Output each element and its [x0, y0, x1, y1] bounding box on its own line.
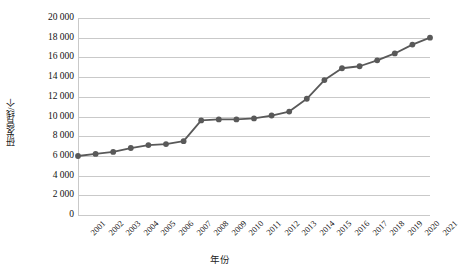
data-point-marker: [216, 117, 222, 123]
x-axis-tick-label: 2007: [195, 219, 213, 237]
data-point-marker: [75, 153, 81, 159]
y-axis-tick-label: 2 000: [10, 190, 74, 200]
x-axis-tick-label: 2001: [89, 219, 107, 237]
y-axis-tick-label: 12 000: [10, 92, 74, 102]
data-point-marker: [198, 118, 204, 124]
x-axis-tick-label: 2017: [371, 219, 389, 237]
y-axis-tick-label: 10 000: [10, 112, 74, 122]
data-point-marker: [392, 51, 398, 57]
data-point-marker: [322, 77, 328, 83]
x-axis-tick-label: 2008: [212, 219, 230, 237]
data-point-marker: [410, 42, 416, 48]
x-axis-tick-label: 2009: [230, 219, 248, 237]
series-line: [78, 38, 430, 156]
x-axis-tick-label: 2012: [283, 219, 301, 237]
x-axis-tick-label: 2015: [335, 219, 353, 237]
x-axis-tick-label: 2003: [124, 219, 142, 237]
y-axis-tick-label: 6 000: [10, 151, 74, 161]
data-point-marker: [374, 57, 380, 63]
x-axis-tick-label: 2014: [318, 219, 336, 237]
x-axis-title: 年份: [0, 252, 440, 266]
data-point-marker: [110, 149, 116, 155]
gridline: [78, 215, 430, 216]
data-point-marker: [304, 96, 310, 102]
y-axis-tick-label: 0: [10, 210, 74, 220]
x-axis-tick-label: 2020: [423, 219, 441, 237]
x-axis-tick-label: 2021: [441, 219, 459, 237]
data-point-marker: [357, 63, 363, 69]
x-axis-tick-label: 2018: [388, 219, 406, 237]
data-point-marker: [234, 117, 240, 123]
x-axis-tick-label: 2004: [142, 219, 160, 237]
data-point-marker: [269, 113, 275, 119]
y-axis-tick-labels: 02 0004 0006 0008 00010 00012 00014 0001…: [8, 18, 74, 215]
plot-area: [78, 18, 430, 215]
y-axis-tick-label: 14 000: [10, 72, 74, 82]
data-point-marker: [339, 65, 345, 71]
y-axis-tick-label: 8 000: [10, 131, 74, 141]
data-point-marker: [93, 151, 99, 157]
x-axis-tick-label: 2006: [177, 219, 195, 237]
x-axis-tick-label: 2019: [406, 219, 424, 237]
data-point-marker: [163, 141, 169, 147]
data-point-marker: [146, 142, 152, 148]
data-point-marker: [128, 145, 134, 151]
x-axis-tick-label: 2002: [107, 219, 125, 237]
y-axis-tick-label: 4 000: [10, 171, 74, 181]
x-axis-tick-label: 2013: [300, 219, 318, 237]
y-axis-tick-label: 18 000: [10, 33, 74, 43]
x-axis-tick-label: 2005: [159, 219, 177, 237]
line-series-rd-pipeline: [78, 18, 430, 215]
y-axis-tick-label: 20 000: [10, 13, 74, 23]
data-point-marker: [181, 138, 187, 144]
x-axis-tick-label: 2011: [265, 219, 283, 237]
data-point-marker: [427, 35, 433, 41]
data-point-marker: [251, 116, 257, 122]
y-axis-tick-label: 16 000: [10, 52, 74, 62]
x-axis-tick-label: 2016: [353, 219, 371, 237]
data-point-marker: [286, 109, 292, 115]
x-axis-tick-label: 2010: [247, 219, 265, 237]
